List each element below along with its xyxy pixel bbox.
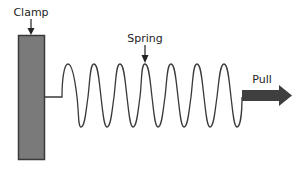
spring-coil (45, 64, 243, 127)
pull-arrow-icon (242, 85, 292, 106)
spring-label: Spring (127, 32, 163, 45)
pull-arrow-group: Pull (242, 73, 292, 106)
clamp-block (19, 36, 45, 160)
pull-label: Pull (252, 73, 272, 86)
clamp-label-group: Clamp (13, 6, 48, 35)
spring-diagram: Clamp Spring Pull (0, 0, 299, 176)
spring-label-group: Spring (127, 32, 163, 63)
clamp-pointer-arrowhead-icon (28, 28, 35, 35)
spring-pointer-arrowhead-icon (142, 55, 149, 63)
clamp-label: Clamp (13, 6, 48, 19)
